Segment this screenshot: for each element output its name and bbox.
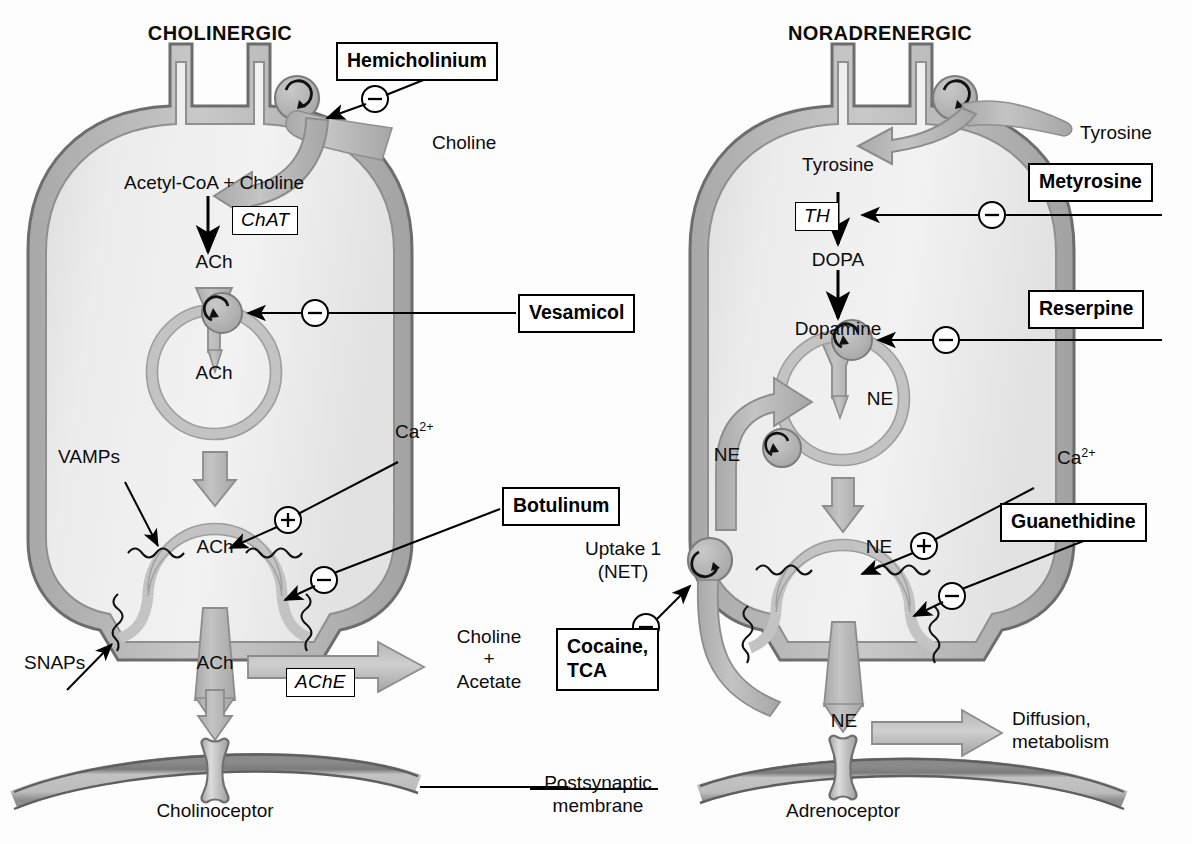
postsynaptic-membrane-label: Postsynaptic membrane (544, 772, 652, 818)
acetyl-coa-choline-label: Acetyl-CoA + Choline (124, 172, 304, 194)
drug-box-cocaine-tca[interactable]: Cocaine, TCA (556, 628, 659, 691)
dopa-label: DOPA (812, 249, 864, 271)
panel-title-cholinergic: CHOLINERGIC (148, 22, 292, 46)
removal-line2: metabolism (1012, 731, 1109, 752)
drug-box-vesamicol[interactable]: Vesamicol (518, 294, 635, 333)
ne-cytoplasm-label: NE (714, 444, 740, 466)
ach-vesicle-label: ACh (196, 362, 233, 384)
ne-cleft-label: NE (831, 710, 857, 732)
ne-fusing-vesicle-label: NE (866, 536, 892, 558)
dopamine-label: Dopamine (795, 318, 882, 340)
ach-cleft-label: ACh (197, 652, 234, 674)
panel-title-noradrenergic: NORADRENERGIC (788, 22, 972, 46)
ach-fusing-vesicle-label: ACh (197, 536, 234, 558)
uptake1-net-label: Uptake 1 (NET) (585, 538, 661, 584)
drug-box-guanethidine[interactable]: Guanethidine (1000, 503, 1147, 542)
cocaine-line2: TCA (567, 659, 607, 681)
chat-enzyme-box: ChAT (232, 206, 298, 235)
th-enzyme-box: TH (795, 202, 839, 231)
uptake1-line2: (NET) (598, 561, 649, 582)
postsynaptic-membrane-noradrenergic (700, 767, 1124, 800)
postsynaptic-line1: Postsynaptic (544, 772, 652, 793)
tyrosine-intracellular-label: Tyrosine (802, 154, 874, 176)
ach-cytoplasm-label: ACh (196, 251, 233, 273)
removal-line1: Diffusion, (1012, 708, 1091, 729)
calcium-label-cholinergic: Ca2+ (395, 420, 434, 444)
uptake1-line1: Uptake 1 (585, 538, 661, 559)
ache-products: Choline + Acetate (457, 626, 521, 693)
cocaine-line1: Cocaine, (567, 635, 648, 657)
drug-box-metyrosine[interactable]: Metyrosine (1028, 163, 1153, 202)
ache-enzyme-box: AChE (286, 668, 355, 697)
cholinoceptor-label: Cholinoceptor (156, 800, 273, 822)
choline-uptake-label: Choline (432, 132, 496, 154)
drug-box-hemicholinium[interactable]: Hemicholinium (336, 42, 498, 81)
drug-box-botulinum[interactable]: Botulinum (502, 487, 620, 526)
adrenoceptor-label: Adrenoceptor (786, 800, 900, 822)
vamps-label: VAMPs (58, 446, 120, 468)
drug-box-reserpine[interactable]: Reserpine (1028, 290, 1144, 329)
snaps-label: SNAPs (24, 652, 85, 674)
tyrosine-extracellular-label: Tyrosine (1080, 122, 1152, 144)
calcium-label-noradrenergic: Ca2+ (1057, 446, 1096, 470)
ne-vesicle-label: NE (867, 388, 893, 410)
ache-product-plus: + (483, 648, 494, 669)
ache-product-choline: Choline (457, 626, 521, 647)
figure-canvas: CHOLINERGIC Choline Acetyl-CoA + Choline… (0, 0, 1192, 844)
ache-product-acetate: Acetate (457, 671, 521, 692)
diffusion-metabolism-label: Diffusion, metabolism (1012, 708, 1109, 754)
postsynaptic-line2: membrane (553, 795, 644, 816)
